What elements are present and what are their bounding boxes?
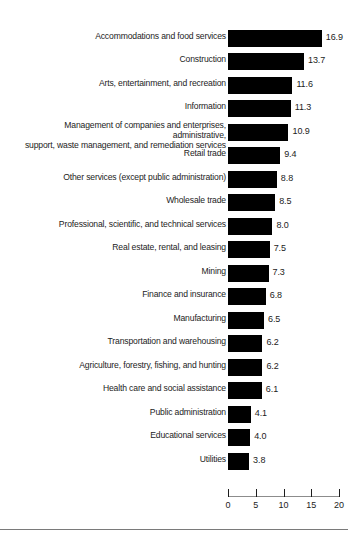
bar-row: Construction13.7 bbox=[0, 51, 348, 75]
bar-category-label: Manufacturing bbox=[10, 313, 226, 323]
bar-category-label: Agriculture, forestry, fishing, and hunt… bbox=[10, 360, 226, 370]
bar bbox=[228, 30, 322, 47]
bar-row: Educational services4.0 bbox=[0, 427, 348, 451]
bar-category-label: Accommodations and food services bbox=[10, 31, 226, 41]
bar bbox=[228, 77, 292, 94]
bar-row: Manufacturing6.5 bbox=[0, 309, 348, 333]
bar-row: Public administration4.1 bbox=[0, 403, 348, 427]
x-axis-tick-label: 20 bbox=[329, 500, 348, 510]
bar-category-label: Educational services bbox=[10, 430, 226, 440]
bar-value-label: 10.9 bbox=[292, 126, 309, 136]
bar-category-label: Retail trade bbox=[10, 148, 226, 158]
bar-row: Accommodations and food services16.9 bbox=[0, 27, 348, 51]
bar-value-label: 4.1 bbox=[255, 408, 267, 418]
bar-row: Utilities3.8 bbox=[0, 450, 348, 474]
bar bbox=[228, 147, 280, 164]
bar-row: Information11.3 bbox=[0, 98, 348, 122]
bar-value-label: 6.1 bbox=[266, 384, 278, 394]
bar bbox=[228, 218, 272, 235]
x-axis-tick-label: 10 bbox=[274, 500, 294, 510]
bar-category-label: Arts, entertainment, and recreation bbox=[10, 78, 226, 88]
bar bbox=[228, 53, 304, 70]
bar bbox=[228, 312, 264, 329]
bar bbox=[228, 359, 262, 376]
bar-value-label: 6.8 bbox=[270, 290, 282, 300]
x-axis-tick bbox=[311, 489, 312, 497]
bar bbox=[228, 171, 277, 188]
bar bbox=[228, 265, 269, 282]
bar-row: Other services (except public administra… bbox=[0, 168, 348, 192]
bar-value-label: 11.6 bbox=[296, 79, 312, 89]
bar bbox=[228, 288, 266, 305]
bar-row: Mining7.3 bbox=[0, 262, 348, 286]
bar-value-label: 6.2 bbox=[266, 361, 278, 371]
horizontal-bar-chart: 05101520 Accommodations and food service… bbox=[0, 0, 348, 539]
bar-row: Management of companies and enterprises,… bbox=[0, 121, 348, 145]
bar-category-label: Finance and insurance bbox=[10, 289, 226, 299]
bar bbox=[228, 406, 251, 423]
bar-value-label: 13.7 bbox=[308, 55, 325, 65]
bar-row: Professional, scientific, and technical … bbox=[0, 215, 348, 239]
bar-category-label: Construction bbox=[10, 54, 226, 64]
x-axis-tick bbox=[284, 489, 285, 497]
bar-row: Wholesale trade8.5 bbox=[0, 192, 348, 216]
bar bbox=[228, 382, 262, 399]
bar-value-label: 9.4 bbox=[284, 149, 296, 159]
bar bbox=[228, 124, 288, 141]
bar bbox=[228, 241, 270, 258]
bar-category-label: Professional, scientific, and technical … bbox=[10, 219, 226, 229]
bar-category-label: Public administration bbox=[10, 407, 226, 417]
bar-value-label: 4.0 bbox=[254, 431, 266, 441]
x-axis-tick bbox=[228, 489, 229, 497]
bar bbox=[228, 100, 291, 117]
bar bbox=[228, 453, 249, 470]
bar-row: Health care and social assistance6.1 bbox=[0, 380, 348, 404]
bar-row: Retail trade9.4 bbox=[0, 145, 348, 169]
bar-category-label: Health care and social assistance bbox=[10, 383, 226, 393]
bar-category-label: Transportation and warehousing bbox=[10, 336, 226, 346]
bar-category-label: Information bbox=[10, 101, 226, 111]
x-axis-tick-label: 5 bbox=[246, 500, 266, 510]
bar-value-label: 7.3 bbox=[273, 267, 285, 277]
bar-category-label: Mining bbox=[10, 266, 226, 276]
bar-row: Real estate, rental, and leasing7.5 bbox=[0, 239, 348, 263]
bar-value-label: 6.2 bbox=[266, 337, 278, 347]
x-axis-tick bbox=[339, 489, 340, 497]
bar-row: Arts, entertainment, and recreation11.6 bbox=[0, 74, 348, 98]
bar-value-label: 16.9 bbox=[326, 32, 343, 42]
bar-value-label: 7.5 bbox=[274, 243, 286, 253]
bar bbox=[228, 429, 250, 446]
bar-value-label: 8.5 bbox=[279, 196, 291, 206]
bar-category-label: Real estate, rental, and leasing bbox=[10, 242, 226, 252]
x-axis-tick-label: 15 bbox=[301, 500, 321, 510]
bar-value-label: 3.8 bbox=[253, 455, 265, 465]
bar-category-label: Other services (except public administra… bbox=[10, 172, 226, 182]
x-axis: 05101520 bbox=[228, 489, 339, 529]
bar-row: Agriculture, forestry, fishing, and hunt… bbox=[0, 356, 348, 380]
bar-row: Finance and insurance6.8 bbox=[0, 286, 348, 310]
bar-value-label: 11.3 bbox=[295, 102, 311, 112]
x-axis-tick bbox=[256, 489, 257, 497]
bar-value-label: 8.8 bbox=[281, 173, 293, 183]
bar bbox=[228, 335, 262, 352]
bar-category-label: Utilities bbox=[10, 454, 226, 464]
bar-category-label: Wholesale trade bbox=[10, 195, 226, 205]
bar-value-label: 6.5 bbox=[268, 314, 280, 324]
bar-value-label: 8.0 bbox=[276, 220, 288, 230]
bar bbox=[228, 194, 275, 211]
x-axis-tick-label: 0 bbox=[218, 500, 238, 510]
bar-row: Transportation and warehousing6.2 bbox=[0, 333, 348, 357]
footer-divider bbox=[0, 529, 348, 530]
